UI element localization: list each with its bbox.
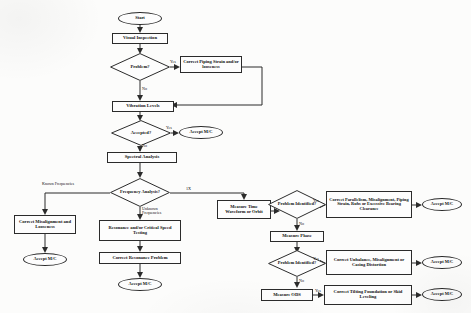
node-frequency-analysis-question: Frequency Analysis? xyxy=(110,178,170,207)
edge-label-no-3: No xyxy=(299,221,304,226)
edge-label-yes-3: Yes xyxy=(313,198,319,203)
node-accept-mc-2: Accept M/C xyxy=(23,253,67,266)
node-accept-mc-4: Accept M/C xyxy=(422,198,462,211)
node-start: Start xyxy=(118,12,162,25)
node-resonance-testing: Resonance and/or Critical Speed Testing xyxy=(99,220,181,241)
node-spectral-analysis: Spectral Analysis xyxy=(107,152,177,163)
node-accepted-question: Accepted? xyxy=(111,120,171,146)
node-correct-tilting-foundation: Correct Tilting Foundation or Skid Level… xyxy=(324,285,412,305)
edge-label-yes-2: Yes xyxy=(166,125,172,130)
edge-label-yes-5: Yes xyxy=(315,288,321,293)
node-visual-inspection: Visual Inspection xyxy=(112,33,168,44)
edge-label-no-1: No xyxy=(142,86,147,91)
edge-label-no-4: No xyxy=(299,278,304,283)
node-measure-time-waveform: Measure Time Waveform or Orbit xyxy=(217,200,271,219)
edge-label-one-x: 1X xyxy=(186,186,191,191)
node-problem-identified-question-2: Problem Identified? xyxy=(268,250,326,277)
node-accept-mc-6: Accept M/C xyxy=(422,288,462,301)
node-accept-mc-5: Accept M/C xyxy=(422,256,462,269)
node-label: Frequency Analysis? xyxy=(110,178,170,207)
node-correct-misalignment: Correct Misalignment and Looseness xyxy=(14,215,76,234)
node-correct-parallelism: Correct Parallelism, Misalignment, Pipin… xyxy=(326,191,412,218)
node-label: Problem? xyxy=(110,53,170,81)
node-measure-ods: Measure ODS xyxy=(261,289,313,301)
node-accept-mc-1: Accept M/C xyxy=(179,126,223,139)
flowchart-page: Start Visual Inspection Problem? Correct… xyxy=(0,0,471,313)
edge-label-unknown-frequencies: Unknown Frequencies xyxy=(142,207,168,215)
node-label: Problem Identified? xyxy=(268,190,326,219)
node-measure-phase: Measure Phase xyxy=(270,231,324,242)
node-vibration-levels: Vibration Levels xyxy=(112,101,174,112)
node-label: Accepted? xyxy=(111,120,171,146)
node-label: Problem Identified? xyxy=(268,250,326,277)
node-problem-question-1: Problem? xyxy=(110,53,170,81)
edge-label-known-frequencies: Known Frequencies xyxy=(42,181,74,186)
node-correct-unbalance: Correct Unbalance, Misalignment or Casin… xyxy=(326,250,412,275)
node-correct-resonance: Correct Resonance Problem xyxy=(99,252,181,264)
edge-label-no-2: No xyxy=(142,143,147,148)
node-accept-mc-3: Accept M/C xyxy=(118,278,162,291)
node-problem-identified-question-1: Problem Identified? xyxy=(268,190,326,219)
edge-label-yes-4: Yes xyxy=(313,256,319,261)
node-correct-piping-strain: Correct Piping Strain and/or looseness xyxy=(180,56,242,73)
edge-label-yes-1: Yes xyxy=(170,59,176,64)
